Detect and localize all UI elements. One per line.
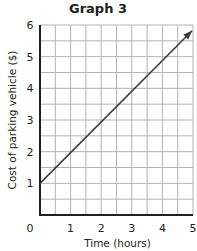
y-tick-label: 6 — [27, 19, 34, 32]
y-tick-label: 3 — [27, 114, 34, 127]
y-tick-label: 4 — [27, 82, 34, 95]
x-tick-label: 1 — [67, 222, 74, 235]
chart-plot: 012345123456 — [0, 0, 196, 251]
x-tick-label: 4 — [159, 222, 166, 235]
x-tick-label: 5 — [190, 222, 197, 235]
y-tick-label: 5 — [27, 51, 34, 64]
x-tick-label: 3 — [128, 222, 135, 235]
x-tick-label: 0 — [27, 222, 34, 235]
y-tick-label: 2 — [27, 146, 34, 159]
x-tick-label: 2 — [98, 222, 105, 235]
y-tick-label: 1 — [27, 177, 34, 190]
